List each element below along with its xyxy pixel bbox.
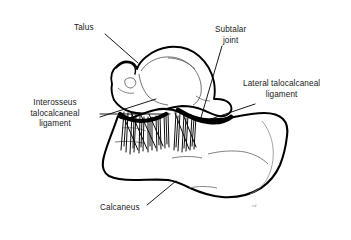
artist-signature: rd	[252, 203, 256, 208]
label-interosseus-talocalcaneal-ligament: Interosseus talocalcaneal ligament	[12, 98, 98, 130]
label-talus: Talus	[74, 23, 94, 34]
label-subtalar-joint: Subtalar joint	[215, 25, 246, 46]
label-lateral-talocalcaneal-ligament: Lateral talocalcaneal ligament	[243, 79, 320, 100]
talus-bone	[111, 47, 231, 116]
label-calcaneus: Calcaneus	[100, 203, 140, 214]
leader-calcaneus	[147, 181, 176, 205]
leader-talus	[105, 34, 138, 63]
